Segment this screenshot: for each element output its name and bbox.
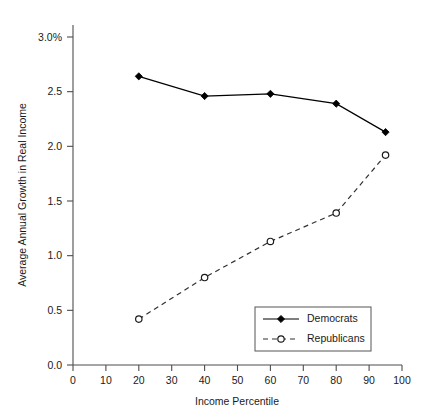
x-tick-label: 0 [70,374,76,386]
data-point [382,129,389,136]
x-tick-label: 30 [166,374,178,386]
x-tick-label: 100 [393,374,411,386]
legend-label: Democrats [307,312,358,324]
data-series-group [135,73,389,323]
y-tick-label: 0.5 [47,304,62,316]
data-point [201,274,207,280]
x-axis-title: Income Percentile [195,395,279,407]
data-point [267,238,273,244]
data-point [135,73,142,80]
x-tick-label: 20 [133,374,145,386]
legend-marker [278,336,284,342]
x-tick-label: 60 [265,374,277,386]
x-tick-label: 90 [363,374,375,386]
y-tick-label: 2.0 [47,140,62,152]
series-democrats [135,73,389,136]
y-tick-label: 1.5 [47,195,62,207]
x-tick-label: 70 [297,374,309,386]
y-tick-label: 3.0% [38,31,62,43]
x-tick-label: 50 [232,374,244,386]
data-point [333,210,339,216]
y-axis-ticks: 0.00.51.01.52.02.53.0% [38,31,73,371]
data-point [382,152,388,158]
legend-label: Republicans [307,332,365,344]
chart-figure: 0.00.51.01.52.02.53.0% 01020304050607080… [0,0,423,412]
y-tick-label: 0.0 [47,359,62,371]
data-point [333,100,340,107]
chart-legend: DemocratsRepublicans [255,307,371,351]
y-tick-label: 1.0 [47,249,62,261]
series-line-republicans [139,155,386,319]
data-point [136,316,142,322]
data-point [267,90,274,97]
x-tick-label: 10 [100,374,112,386]
line-chart: 0.00.51.01.52.02.53.0% 01020304050607080… [0,0,423,412]
series-republicans [136,152,389,322]
y-tick-label: 2.5 [47,85,62,97]
series-line-democrats [139,76,386,132]
x-axis-ticks: 0102030405060708090100 [70,365,411,386]
x-tick-label: 80 [330,374,342,386]
x-tick-label: 40 [199,374,211,386]
data-point [201,92,208,99]
y-axis-title: Average Annual Growth in Real Income [16,103,28,287]
